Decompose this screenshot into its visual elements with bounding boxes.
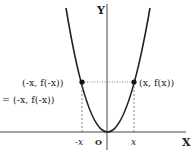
left-point [79,79,84,84]
left-point-label: (-x, f(-x)) [22,77,64,88]
even-function-diagram: Y X O -x x (-x, f(-x)) = (-x, f(-x)) (x,… [0,0,192,158]
x-axis-label: X [182,136,191,149]
neg-x-tick-label: -x [75,137,83,147]
right-point [131,79,136,84]
pos-x-tick-label: x [131,137,136,147]
parabola-curve [66,8,150,132]
origin-label: O [95,137,102,147]
y-axis-label: Y [96,4,105,17]
right-point-label: (x, f(x)) [139,77,174,88]
left-point-equality-label: = (-x, f(-x)) [2,94,55,105]
